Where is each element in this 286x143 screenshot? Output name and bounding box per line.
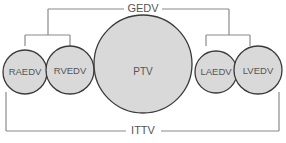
ittv-label: ITTV	[131, 124, 155, 136]
ptv-label: PTV	[133, 66, 153, 77]
node-lvedv: LVEDV	[234, 46, 282, 94]
node-laedv: LAEDV	[195, 51, 237, 93]
lvedv-label: LVEDV	[243, 65, 274, 76]
volume-diagram: GEDV ITTV RAEDV RVEDV PTV LAEDV LVEDV	[0, 0, 286, 143]
raedv-label: RAEDV	[9, 66, 42, 77]
gedv-label: GEDV	[127, 2, 159, 14]
laedv-label: LAEDV	[200, 66, 232, 77]
node-ptv: PTV	[94, 15, 192, 113]
rvedv-label: RVEDV	[54, 65, 87, 76]
ptv-circle	[94, 15, 192, 113]
node-raedv: RAEDV	[3, 50, 47, 94]
node-rvedv: RVEDV	[46, 46, 94, 94]
